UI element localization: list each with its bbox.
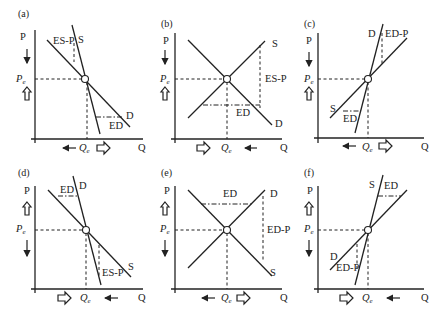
hollow-arrow-right-icon xyxy=(237,292,250,304)
svg-text:Qe: Qe xyxy=(221,142,232,155)
curve2-label: D xyxy=(330,251,338,262)
panel-a: (a) P Q Pe Qe S D ES-P ED xyxy=(15,8,146,155)
p-axis-label: P xyxy=(24,185,30,196)
curve2-label: S xyxy=(270,267,276,278)
equilibrium-point xyxy=(83,227,90,234)
gap-top-label: ED xyxy=(384,180,398,191)
gap-top-label: ES-P xyxy=(265,73,287,84)
equilibrium-point xyxy=(365,76,372,83)
curve2-label: S xyxy=(330,103,336,114)
svg-text:Qe: Qe xyxy=(362,141,373,154)
pe-label: Pe xyxy=(303,223,314,236)
panel-label: (f) xyxy=(304,167,314,179)
gap-bottom-label: ED xyxy=(343,113,357,124)
pe-label: Pe xyxy=(303,73,314,86)
panel-c: (c) P Q Pe Qe D S ED-P ED xyxy=(303,18,429,154)
curve1-label: D xyxy=(270,188,278,199)
qe-label: Qe xyxy=(221,142,232,155)
curve1-label: S xyxy=(78,34,84,45)
panel-label: (b) xyxy=(161,18,173,30)
panel-label: (e) xyxy=(161,167,172,179)
svg-text:Pe: Pe xyxy=(303,223,314,236)
gap-top-label: ED xyxy=(60,184,74,195)
supply-curve xyxy=(48,190,131,277)
qe-label: Qe xyxy=(80,292,91,305)
curve2-label: S xyxy=(128,261,134,272)
gap-top-label: ED xyxy=(223,188,237,199)
hollow-arrow-up-icon xyxy=(305,87,313,100)
hollow-arrow-up-icon xyxy=(305,202,313,215)
curve2-label: D xyxy=(126,110,134,121)
curve2-label: D xyxy=(275,118,283,129)
hollow-arrow-up-icon xyxy=(23,202,31,215)
gap-bottom-label: ED-P xyxy=(336,262,359,273)
p-axis-label: P xyxy=(164,185,170,196)
panel-b: (b) P Q Pe Qe S D ES-P ED xyxy=(159,18,288,155)
gap-top-label: ES-P xyxy=(53,35,75,46)
qe-label: Qe xyxy=(362,292,373,305)
q-axis-label: Q xyxy=(421,292,429,303)
equilibrium-point xyxy=(82,76,89,83)
panel-d: (d) P Q Pe Qe D S ED ES-P xyxy=(15,167,146,305)
hollow-arrow-right-icon xyxy=(97,142,110,154)
pe-label: Pe xyxy=(15,73,26,86)
hollow-arrow-right-icon xyxy=(340,292,353,304)
curve1-label: S xyxy=(272,38,278,49)
qe-label: Qe xyxy=(362,141,373,154)
equilibrium-point xyxy=(365,227,372,234)
panel-e: (e) P Q Pe Qe D S ED ED-P xyxy=(159,167,290,305)
svg-text:Pe: Pe xyxy=(159,73,170,86)
demand-curve xyxy=(47,40,130,127)
hollow-arrow-right-icon xyxy=(379,140,392,152)
q-axis-label: Q xyxy=(421,141,429,152)
q-axis-label: Q xyxy=(138,292,146,303)
panel-f: (f) P Q Pe Qe S D ED ED-P xyxy=(303,167,429,305)
gap-bottom-label: ED-P xyxy=(267,224,290,235)
curve1-label: D xyxy=(79,180,87,191)
svg-text:Qe: Qe xyxy=(80,292,91,305)
gap-bottom-label: ED xyxy=(236,107,250,118)
hollow-arrow-up-icon xyxy=(161,87,169,100)
svg-text:Pe: Pe xyxy=(15,73,26,86)
gap-top-label: ED-P xyxy=(385,28,408,39)
curve1-label: D xyxy=(368,28,376,39)
supply-curve xyxy=(188,190,272,276)
panel-label: (d) xyxy=(18,167,30,179)
hollow-arrow-right-icon xyxy=(58,292,71,304)
gap-bottom-label: ED xyxy=(109,120,123,131)
stability-diagrams: (a) P Q Pe Qe S D ES-P ED (b) P Q Pe Qe xyxy=(0,0,446,317)
svg-text:Pe: Pe xyxy=(159,223,170,236)
svg-text:Qe: Qe xyxy=(362,292,373,305)
hollow-arrow-up-icon xyxy=(23,87,31,100)
demand-curve xyxy=(188,40,272,125)
p-axis-label: P xyxy=(20,31,26,42)
p-axis-label: P xyxy=(163,35,169,46)
q-axis-label: Q xyxy=(280,142,288,153)
svg-text:Qe: Qe xyxy=(79,142,90,155)
p-axis-label: P xyxy=(306,35,312,46)
q-axis-label: Q xyxy=(138,142,146,153)
equilibrium-point xyxy=(224,227,231,234)
svg-text:Qe: Qe xyxy=(221,292,232,305)
qe-label: Qe xyxy=(79,142,90,155)
svg-text:Pe: Pe xyxy=(303,73,314,86)
pe-label: Pe xyxy=(159,223,170,236)
equilibrium-point xyxy=(224,76,231,83)
hollow-arrow-up-icon xyxy=(161,202,169,215)
gap-bottom-label: ES-P xyxy=(102,267,124,278)
svg-text:Pe: Pe xyxy=(15,223,26,236)
curve1-label: S xyxy=(369,179,375,190)
pe-label: Pe xyxy=(159,73,170,86)
pe-label: Pe xyxy=(15,223,26,236)
hollow-arrow-right-icon xyxy=(197,142,210,154)
p-axis-label: P xyxy=(307,185,313,196)
q-axis-label: Q xyxy=(280,292,288,303)
panel-label: (c) xyxy=(304,18,315,30)
panel-label: (a) xyxy=(18,8,29,20)
qe-label: Qe xyxy=(221,292,232,305)
